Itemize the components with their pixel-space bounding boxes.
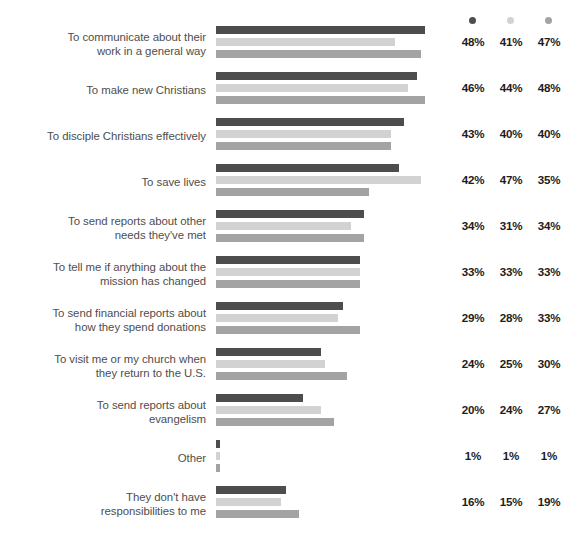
category-label: To send financial reports abouthow they … [8, 302, 206, 338]
category-label: To send reports aboutevangelism [8, 394, 206, 430]
value-label-series-1-dark: 43% [458, 127, 488, 140]
category-label: To communicate about theirwork in a gene… [8, 26, 206, 62]
bar-series-1-dark [216, 72, 417, 80]
category-label-line: To disciple Christians effectively [47, 129, 206, 144]
bar-group [216, 486, 456, 524]
category-label-line: To tell me if anything about the [53, 260, 206, 275]
bar-series-3-medium [216, 464, 220, 472]
value-labels: 33%33%33% [460, 265, 572, 283]
legend-dot-icon-series-1 [469, 17, 476, 24]
bar-series-1-dark [216, 394, 303, 402]
category-label-line: To send reports about other [68, 214, 206, 229]
value-labels: 1%1%1% [460, 449, 572, 467]
bar-series-2-light [216, 130, 391, 138]
bar-group [216, 72, 456, 110]
value-label-series-1-dark: 34% [458, 219, 488, 232]
value-label-series-2-light: 31% [496, 219, 526, 232]
value-labels: 48%41%47% [460, 35, 572, 53]
value-label-series-2-light: 47% [496, 173, 526, 186]
value-label-series-3-medium: 35% [534, 173, 564, 186]
bar-group [216, 256, 456, 294]
bar-group [216, 118, 456, 156]
bar-series-1-dark [216, 486, 286, 494]
grouped-bar-chart: To communicate about theirwork in a gene… [0, 0, 577, 537]
bar-series-2-light [216, 222, 351, 230]
chart-row: To save lives42%47%35% [0, 164, 577, 210]
value-label-series-3-medium: 30% [534, 357, 564, 370]
value-label-series-1-dark: 42% [458, 173, 488, 186]
value-label-series-1-dark: 29% [458, 311, 488, 324]
value-label-series-1-dark: 24% [458, 357, 488, 370]
bar-series-3-medium [216, 96, 425, 104]
bar-series-3-medium [216, 326, 360, 334]
value-labels: 42%47%35% [460, 173, 572, 191]
value-label-series-3-medium: 27% [534, 403, 564, 416]
chart-row: Other1%1%1% [0, 440, 577, 486]
value-label-series-3-medium: 47% [534, 35, 564, 48]
category-label-line: evangelism [149, 412, 206, 427]
value-label-series-2-light: 25% [496, 357, 526, 370]
bar-series-1-dark [216, 26, 425, 34]
bar-series-1-dark [216, 440, 220, 448]
bar-series-2-light [216, 406, 321, 414]
value-label-series-2-light: 1% [496, 449, 526, 462]
value-labels: 46%44%48% [460, 81, 572, 99]
value-label-series-1-dark: 20% [458, 403, 488, 416]
category-label-line: work in a general way [97, 44, 206, 59]
category-label-line: needs they've met [115, 228, 206, 243]
bar-series-3-medium [216, 510, 299, 518]
value-labels: 24%25%30% [460, 357, 572, 375]
bar-series-2-light [216, 268, 360, 276]
legend-dot-icon-series-3 [545, 17, 552, 24]
bar-group [216, 394, 456, 432]
value-label-series-2-light: 28% [496, 311, 526, 324]
value-label-series-3-medium: 33% [534, 311, 564, 324]
category-label-line: To communicate about their [67, 30, 206, 45]
bar-series-2-light [216, 176, 421, 184]
legend-dot-icon-series-2 [507, 17, 514, 24]
value-label-series-2-light: 40% [496, 127, 526, 140]
category-label-line: they return to the U.S. [96, 366, 206, 381]
chart-rows: To communicate about theirwork in a gene… [0, 26, 577, 532]
chart-row: To send reports aboutevangelism20%24%27% [0, 394, 577, 440]
bar-group [216, 164, 456, 202]
category-label-line: To visit me or my church when [54, 352, 206, 367]
chart-row: They don't haveresponsibilities to me16%… [0, 486, 577, 532]
bar-group [216, 440, 456, 478]
bar-series-3-medium [216, 280, 360, 288]
value-label-series-1-dark: 48% [458, 35, 488, 48]
category-label-line: To send reports about [97, 398, 206, 413]
category-label-line: To save lives [141, 175, 206, 190]
bar-series-1-dark [216, 256, 360, 264]
category-label: They don't haveresponsibilities to me [8, 486, 206, 522]
value-label-series-3-medium: 1% [534, 449, 564, 462]
category-label-line: mission has changed [100, 274, 206, 289]
chart-row: To send financial reports abouthow they … [0, 302, 577, 348]
category-label-line: responsibilities to me [101, 504, 206, 519]
bar-group [216, 348, 456, 386]
bar-series-3-medium [216, 234, 364, 242]
value-label-series-1-dark: 1% [458, 449, 488, 462]
category-label-line: To send financial reports about [52, 306, 206, 321]
value-label-series-3-medium: 48% [534, 81, 564, 94]
value-label-series-1-dark: 33% [458, 265, 488, 278]
value-labels: 20%24%27% [460, 403, 572, 421]
bar-series-1-dark [216, 210, 364, 218]
category-label: To save lives [8, 164, 206, 200]
bar-series-2-light [216, 452, 220, 460]
category-label: Other [8, 440, 206, 476]
value-labels: 43%40%40% [460, 127, 572, 145]
category-label-line: To make new Christians [86, 83, 206, 98]
chart-row: To disciple Christians effectively43%40%… [0, 118, 577, 164]
chart-row: To communicate about theirwork in a gene… [0, 26, 577, 72]
value-label-series-3-medium: 33% [534, 265, 564, 278]
bar-series-3-medium [216, 188, 369, 196]
value-label-series-3-medium: 40% [534, 127, 564, 140]
bar-series-3-medium [216, 142, 391, 150]
value-labels: 16%15%19% [460, 495, 572, 513]
value-label-series-2-light: 33% [496, 265, 526, 278]
chart-row: To make new Christians46%44%48% [0, 72, 577, 118]
value-label-series-1-dark: 16% [458, 495, 488, 508]
value-label-series-2-light: 24% [496, 403, 526, 416]
bar-series-2-light [216, 84, 408, 92]
